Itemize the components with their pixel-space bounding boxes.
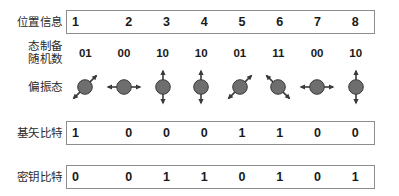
position-cell: 5: [223, 12, 261, 33]
key-bit-values-box: 0 0 1 1 0 1 0 1: [66, 165, 375, 189]
key-bit-cell: 0: [67, 167, 110, 188]
random-number-cell: 00: [105, 47, 144, 59]
polarization-cell: [105, 66, 144, 108]
position-cell: 1: [67, 12, 110, 33]
key-bit-cell: 1: [336, 167, 374, 188]
basis-bit-cell: 0: [299, 123, 337, 144]
basis-bit-cell: 0: [110, 123, 148, 144]
key-bit-row-label: 密钥比特: [0, 170, 66, 184]
polarization-row: 偏振态: [0, 66, 399, 108]
key-bit-cell: 1: [261, 167, 299, 188]
basis-bit-values-box: 1 0 0 0 1 1 0 0: [66, 121, 375, 145]
basis-bit-row-label: 基矢比特: [0, 126, 66, 140]
key-bit-row: 密钥比特 0 0 1 1 0 1 0 1: [0, 165, 399, 189]
basis-bit-cell: 1: [223, 123, 261, 144]
key-bit-cell: 1: [148, 167, 186, 188]
polarization-vertical-icon: [144, 68, 182, 106]
position-row-label: 位置信息: [0, 15, 66, 29]
random-number-row-label: 态制备 随机数: [0, 40, 66, 66]
random-number-cell: 01: [66, 47, 105, 59]
random-number-cell: 10: [336, 47, 375, 59]
position-cell: 6: [261, 12, 299, 33]
position-cell: 4: [185, 12, 223, 33]
random-number-cell: 10: [182, 47, 221, 59]
polarization-cell: [143, 66, 182, 108]
random-number-cell: 10: [143, 47, 182, 59]
polarization-vertical-icon: [337, 68, 375, 106]
random-number-row: 态制备 随机数 01 00 10 10 01 11 00 10: [0, 42, 399, 64]
key-bit-cell: 0: [110, 167, 148, 188]
key-bit-cell: 0: [299, 167, 337, 188]
polarization-cell: [336, 66, 375, 108]
basis-bit-cell: 0: [148, 123, 186, 144]
polarization-vertical-icon: [182, 68, 220, 106]
polarization-icons: [66, 66, 375, 108]
polarization-diagonal-icon: [221, 68, 259, 106]
basis-bit-row: 基矢比特 1 0 0 0 1 1 0 0: [0, 121, 399, 145]
position-cell: 3: [148, 12, 186, 33]
position-cell: 7: [299, 12, 337, 33]
random-number-values: 01 00 10 10 01 11 00 10: [66, 42, 375, 64]
key-bit-cell: 0: [223, 167, 261, 188]
polarization-horizontal-icon: [298, 68, 336, 106]
polarization-cell: [298, 66, 337, 108]
polarization-antidiagonal-icon: [259, 68, 297, 106]
random-number-cell: 00: [298, 47, 337, 59]
basis-bit-cell: 0: [336, 123, 374, 144]
basis-bit-cell: 1: [261, 123, 299, 144]
random-number-cell: 11: [259, 47, 298, 59]
polarization-row-label: 偏振态: [0, 80, 66, 94]
polarization-cell: [221, 66, 260, 108]
polarization-horizontal-icon: [105, 68, 143, 106]
basis-bit-cell: 0: [185, 123, 223, 144]
random-number-cell: 01: [221, 47, 260, 59]
polarization-cell: [182, 66, 221, 108]
key-bit-cell: 1: [185, 167, 223, 188]
polarization-cell: [259, 66, 298, 108]
bb84-state-diagram: 位置信息 1 2 3 4 5 6 7 8 态制备 随机数 01 00 10 10…: [0, 0, 399, 196]
polarization-cell: [66, 66, 105, 108]
polarization-diagonal-icon: [66, 68, 104, 106]
position-cell: 8: [336, 12, 374, 33]
basis-bit-cell: 1: [67, 123, 110, 144]
position-values-box: 1 2 3 4 5 6 7 8: [66, 10, 375, 34]
position-cell: 2: [110, 12, 148, 33]
position-row: 位置信息 1 2 3 4 5 6 7 8: [0, 10, 399, 34]
